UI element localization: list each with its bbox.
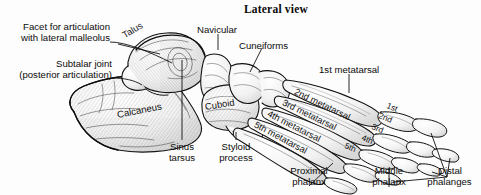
anatomy-figure-lateral-foot: Lateral view Facet for articulation with… (0, 0, 481, 195)
label-distal-line2: phalanges (418, 176, 481, 187)
label-subtalar-line2: (posterior articulation) (0, 69, 112, 80)
label-styloid-line2: process (208, 152, 264, 163)
label-cuneiforms: Cuneiforms (239, 40, 288, 51)
label-styloid-line1: Styloid (208, 141, 264, 152)
label-first-metatarsal: 1st metatarsal (319, 64, 379, 75)
label-proximal-line1: Proximal (278, 165, 340, 176)
label-sinus-line2: tarsus (157, 152, 207, 163)
label-navicular: Navicular (197, 24, 237, 35)
bone-talus (122, 30, 212, 96)
figure-title: Lateral view (221, 3, 331, 15)
label-subtalar-line1: Subtalar joint (0, 58, 112, 69)
label-distal-line1: Distal (420, 165, 480, 176)
label-middle-line1: Middle (360, 165, 418, 176)
label-middle-line2: phalanx (360, 176, 418, 187)
label-facet-line2: with lateral malleolus (0, 32, 110, 43)
label-sinus-line1: Sinus (157, 141, 207, 152)
label-facet-line1: Facet for articulation (0, 21, 110, 32)
label-proximal-line2: phalanx (278, 176, 340, 187)
